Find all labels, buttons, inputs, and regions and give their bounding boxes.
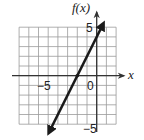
origin-label: 0: [87, 79, 94, 93]
y-tick-label-5: 5: [86, 21, 93, 35]
function-graph: f(x) x −5 0 5 −5: [0, 0, 144, 140]
x-intercept-point: [76, 74, 80, 78]
y-axis-label: f(x): [72, 0, 90, 15]
x-axis-label: x: [127, 67, 134, 82]
x-tick-label-neg5: −5: [37, 79, 51, 93]
y-tick-label-neg5: −5: [83, 122, 97, 136]
